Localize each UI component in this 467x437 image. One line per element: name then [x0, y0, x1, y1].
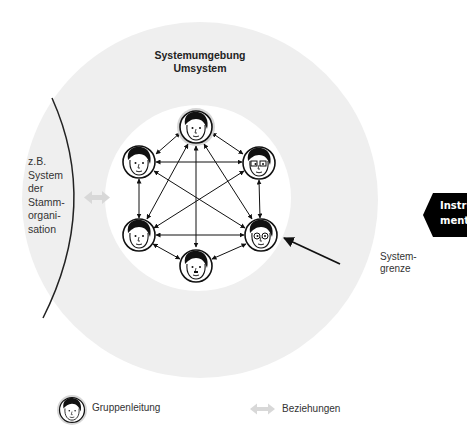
- title-line-1: Systemumgebung: [130, 49, 270, 62]
- member-leader: [177, 108, 215, 146]
- instruments-tab[interactable]: Instru- mente: [440, 198, 467, 228]
- environment-title: Systemumgebung Umsystem: [130, 49, 270, 75]
- member-bottom: [180, 250, 212, 282]
- boundary-label-line-2: grenze: [380, 263, 430, 275]
- legend-leader-icon: [57, 395, 87, 425]
- parent-label-line: organi-: [28, 209, 78, 223]
- member-lower-right: [245, 219, 277, 251]
- member-upper-right: [243, 147, 275, 179]
- member-upper-left: [123, 146, 155, 178]
- title-line-2: Umsystem: [130, 62, 270, 75]
- parent-system-label: z.B. System der Stamm- organi- sation: [28, 155, 78, 236]
- legend-relation-icon: [250, 404, 275, 415]
- boundary-label-line-1: System-: [380, 251, 430, 263]
- parent-label-line: System: [28, 169, 78, 183]
- parent-label-line: Stamm-: [28, 196, 78, 210]
- instruments-tab-line-2: mente: [440, 213, 467, 228]
- system-boundary-label: System- grenze: [380, 251, 430, 275]
- legend-leader-label: Gruppenleitung: [92, 402, 160, 414]
- parent-label-line: z.B.: [28, 155, 78, 169]
- instruments-tab-line-1: Instru-: [440, 198, 467, 213]
- member-lower-left: [123, 219, 155, 251]
- parent-label-line: der: [28, 182, 78, 196]
- legend-relations-label: Beziehungen: [282, 403, 340, 415]
- parent-label-line: sation: [28, 223, 78, 237]
